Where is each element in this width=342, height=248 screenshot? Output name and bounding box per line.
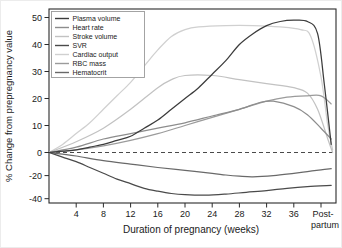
legend-label: SVR [73,42,87,49]
legend-label: Cardiac output [73,51,119,59]
x-tick-label: 16 [153,209,163,219]
y-tick-label: 40 [32,40,42,50]
series-line-heart-rate [49,101,331,153]
x-tick-label: 24 [207,209,217,219]
y-tick-label: 10 [32,121,42,131]
postpartum-label-line1: Post- [312,209,333,219]
x-axis-title: Duration of pregnancy (weeks) [123,224,259,235]
x-tick-label: 36 [289,209,299,219]
legend-label: Stroke volume [73,33,118,40]
y-axis-ticks: 50403020100-20-40 [29,13,49,204]
pregnancy-hemodynamics-chart: 50403020100-20-40 4812162024283236Post-p… [0,0,342,248]
x-tick-label: 28 [234,209,244,219]
y-tick-label: 0 [37,148,42,158]
legend-label: Plasma volume [73,15,121,22]
y-axis-title: % Change from prepregnancy value [3,30,14,182]
y-tick-label: 50 [32,13,42,23]
series-line-hematocrit [49,153,331,177]
legend-label: RBC mass [73,60,107,67]
x-tick-label: 32 [262,209,272,219]
x-tick-label: 8 [101,209,106,219]
y-tick-label: 20 [32,94,42,104]
legend-label: Heart rate [73,24,104,31]
y-tick-label: 30 [32,67,42,77]
y-tick-label: -40 [29,194,42,204]
legend-label: Hematocrit [73,69,107,76]
y-tick-label: -20 [29,171,42,181]
legend: Plasma volumeHeart rateStroke volumeSVRC… [52,12,145,78]
series-line-rbc-mass [49,95,331,152]
postpartum-label-line2: partum [311,220,339,230]
x-tick-label: 20 [180,209,190,219]
series-line-stroke-volume [49,75,333,153]
chart-canvas: 50403020100-20-40 4812162024283236Post-p… [1,1,342,248]
x-tick-label: 12 [126,209,136,219]
x-tick-label: 4 [74,209,79,219]
